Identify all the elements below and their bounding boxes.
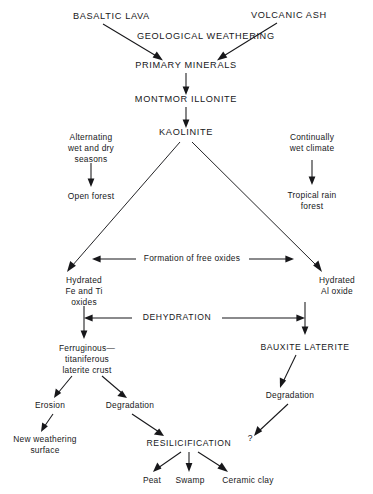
edge-alternating-to-open-forest: [88, 163, 95, 187]
ferruginous-line-3: laterite crust: [62, 365, 112, 375]
ferruginous-line-1: Ferruginous—: [59, 343, 115, 353]
edge-resilicification-to-peat: [153, 452, 181, 472]
node-resilicification: RESILICIFICATION: [147, 438, 232, 448]
edge-basaltic-lava-to-primary-minerals: [103, 24, 163, 61]
hydrated-al-line-2: Al oxide: [321, 286, 353, 296]
edge-ferruginous-to-degradation-left: [102, 376, 127, 398]
edge-degradation-right-to-question-mark: [254, 404, 288, 436]
edge-primary-minerals-to-montmor-illonite: [183, 73, 190, 95]
node-primary-minerals: PRIMARY MINERALS: [135, 60, 236, 70]
node-bauxite-laterite: BAUXITE LATERITE: [260, 342, 349, 352]
alternating-line-1: Alternating: [70, 132, 113, 142]
alternating-line-2: wet and dry: [67, 143, 115, 153]
edge-montmor-illonite-to-kaolinite: [183, 107, 190, 128]
edge-bauxite-to-degradation-right: [280, 355, 296, 388]
edge-erosion-to-new-weathering-surface: [41, 414, 53, 432]
edge-resilicification-to-ceramic-clay: [198, 452, 228, 472]
node-geological-weathering: GEOLOGICAL WEATHERING: [137, 31, 275, 41]
edge-continually-to-tropical-rain-forest: [309, 160, 316, 185]
tropical-rain-line-2: forest: [301, 201, 324, 211]
node-ferruginous-titaniferous-laterite-crust: Ferruginous— titaniferous laterite crust: [59, 343, 115, 375]
edge-hydrated-fe-to-ferruginous: [81, 306, 88, 339]
label-dehydration: DEHYDRATION: [143, 312, 212, 322]
node-swamp: Swamp: [175, 475, 204, 485]
node-tropical-rain-forest: Tropical rain forest: [287, 190, 336, 211]
node-question-mark: ?: [248, 433, 253, 443]
node-alternating-wet-dry-seasons: Alternating wet and dry seasons: [67, 132, 115, 164]
node-basaltic-lava: BASALTIC LAVA: [73, 11, 150, 21]
node-erosion: Erosion: [35, 400, 65, 410]
edge-ferruginous-to-erosion: [54, 376, 72, 398]
node-degradation-right: Degradation: [266, 390, 314, 400]
node-degradation-left: Degradation: [106, 400, 154, 410]
edge-resilicification-to-swamp: [186, 452, 193, 472]
node-montmor-illonite: MONTMOR ILLONITE: [135, 94, 237, 104]
node-kaolinite: KAOLINITE: [159, 127, 213, 137]
ferruginous-line-2: titaniferous: [65, 354, 109, 364]
node-peat: Peat: [143, 475, 162, 485]
hydrated-al-line-1: Hydrated: [319, 275, 355, 285]
edge-volcanic-ash-to-primary-minerals: [217, 23, 277, 61]
node-open-forest: Open forest: [68, 191, 115, 201]
node-volcanic-ash: VOLCANIC ASH: [251, 10, 327, 20]
hydrated-fe-line-1: Hydrated: [66, 275, 102, 285]
tropical-rain-line-1: Tropical rain: [287, 190, 336, 200]
hydrated-fe-line-2: Fe and Ti: [65, 286, 102, 296]
node-hydrated-al-oxide: Hydrated Al oxide: [319, 275, 355, 296]
node-ceramic-clay: Ceramic clay: [222, 475, 274, 485]
new-weathering-line-1: New weathering: [13, 434, 77, 444]
hydrated-fe-line-3: oxides: [71, 297, 97, 307]
weathering-flowchart: BASALTIC LAVA VOLCANIC ASH GEOLOGICAL WE…: [0, 0, 373, 494]
label-formation-of-free-oxides: Formation of free oxides: [144, 253, 240, 263]
node-hydrated-fe-ti-oxides: Hydrated Fe and Ti oxides: [65, 275, 102, 307]
node-continually-wet-climate: Continually wet climate: [289, 132, 335, 153]
alternating-line-3: seasons: [75, 154, 108, 164]
diagram-page: BASALTIC LAVA VOLCANIC ASH GEOLOGICAL WE…: [0, 0, 373, 494]
new-weathering-line-2: surface: [30, 445, 59, 455]
continually-line-2: wet climate: [289, 143, 335, 153]
edge-degradation-left-to-resilicification: [132, 414, 164, 436]
continually-line-1: Continually: [290, 132, 335, 142]
node-new-weathering-surface: New weathering surface: [13, 434, 77, 455]
